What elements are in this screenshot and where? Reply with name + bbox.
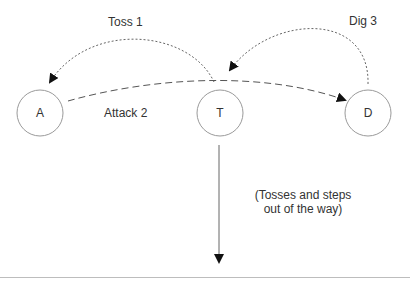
toss-label: Toss 1 <box>108 15 143 29</box>
bottom-divider <box>0 277 410 278</box>
node-a-label: A <box>30 106 50 120</box>
setter-note: (Tosses and steps out of the way) <box>248 188 358 216</box>
attack-label: Attack 2 <box>104 106 147 120</box>
diagram-canvas <box>0 0 410 281</box>
toss-arrow <box>50 39 214 82</box>
setter-note-line1: (Tosses and steps <box>248 188 358 202</box>
node-t-label: T <box>210 106 230 120</box>
setter-note-line2: out of the way) <box>248 202 358 216</box>
dig-arrow <box>230 29 368 84</box>
node-d-label: D <box>358 106 378 120</box>
dig-label: Dig 3 <box>349 14 377 28</box>
attack-arrow <box>68 80 345 101</box>
